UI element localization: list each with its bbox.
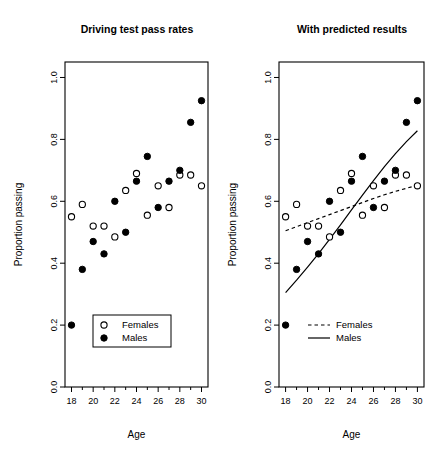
x-tick-label-left-1: 20	[88, 396, 98, 406]
data-point-females	[123, 187, 129, 193]
panel-title-right: With predicted results	[297, 23, 407, 35]
data-point-females	[282, 214, 288, 220]
y-tick-label-left-1: 0.2	[49, 319, 59, 332]
data-point-males	[304, 238, 310, 244]
x-tick-label-left-2: 22	[110, 396, 120, 406]
x-tick-label-right-2: 22	[325, 396, 335, 406]
two-panel-scatter-figure: Driving test pass rates0.00.20.40.60.81.…	[0, 0, 443, 460]
data-point-males	[403, 119, 409, 125]
data-point-males	[414, 97, 420, 103]
data-point-males	[79, 266, 85, 272]
panel-title-left: Driving test pass rates	[81, 23, 194, 35]
data-point-females	[293, 201, 299, 207]
y-axis-label-right: Proportion passing	[227, 183, 238, 266]
data-point-females	[198, 183, 204, 189]
data-point-females	[348, 170, 354, 176]
data-point-males	[90, 238, 96, 244]
y-tick-label-right-2: 0.4	[263, 257, 273, 270]
data-point-females	[112, 234, 118, 240]
legend-label-females: Females	[336, 319, 373, 330]
x-tick-label-left-6: 30	[196, 396, 206, 406]
data-point-males	[370, 204, 376, 210]
legend-label-females: Females	[122, 319, 159, 330]
legend-left[interactable]: FemalesMales	[93, 315, 171, 347]
data-point-males	[166, 178, 172, 184]
data-point-males	[122, 229, 128, 235]
y-tick-label-right-4: 0.8	[263, 133, 273, 146]
data-point-females	[144, 212, 150, 218]
data-point-females	[133, 170, 139, 176]
data-point-males	[359, 153, 365, 159]
data-point-females	[414, 183, 420, 189]
x-tick-label-left-4: 26	[153, 396, 163, 406]
x-tick-label-left-0: 18	[66, 396, 76, 406]
data-point-females	[166, 204, 172, 210]
x-tick-label-right-5: 28	[390, 396, 400, 406]
y-tick-label-left-3: 0.6	[49, 195, 59, 208]
data-point-males	[293, 266, 299, 272]
data-point-males	[381, 178, 387, 184]
data-point-females	[370, 183, 376, 189]
legend-marker-open-circle	[101, 322, 107, 328]
data-point-females	[337, 187, 343, 193]
data-point-females	[155, 183, 161, 189]
data-point-females	[101, 223, 107, 229]
data-point-females	[90, 223, 96, 229]
data-point-males	[392, 167, 398, 173]
data-point-males	[282, 322, 288, 328]
data-point-males	[315, 251, 321, 257]
legend-marker-filled-circle	[101, 335, 107, 341]
x-axis-label-left: Age	[128, 429, 146, 440]
data-point-females	[68, 214, 74, 220]
x-tick-label-right-0: 18	[281, 396, 291, 406]
data-point-females	[79, 201, 85, 207]
data-point-females	[381, 204, 387, 210]
fit-line-males	[286, 131, 418, 293]
chart-panel-left: Driving test pass rates0.00.20.40.60.81.…	[13, 23, 208, 440]
chart-panel-right: With predicted results0.00.20.40.60.81.0…	[227, 23, 424, 440]
data-point-males	[198, 97, 204, 103]
data-point-males	[68, 322, 74, 328]
data-point-females	[359, 212, 365, 218]
data-point-males	[155, 204, 161, 210]
x-tick-label-right-4: 26	[368, 396, 378, 406]
legend-label-males: Males	[336, 332, 362, 343]
y-tick-label-left-0: 0.0	[49, 381, 59, 394]
y-tick-label-right-0: 0.0	[263, 381, 273, 394]
data-point-males	[177, 167, 183, 173]
data-point-males	[112, 198, 118, 204]
x-tick-label-right-6: 30	[412, 396, 422, 406]
y-axis-label-left: Proportion passing	[13, 183, 24, 266]
y-tick-label-right-5: 1.0	[263, 71, 273, 84]
y-tick-label-right-3: 0.6	[263, 195, 273, 208]
x-tick-label-right-3: 24	[346, 396, 356, 406]
data-point-males	[326, 198, 332, 204]
data-point-females	[315, 223, 321, 229]
data-point-males	[133, 178, 139, 184]
data-point-females	[188, 172, 194, 178]
data-point-females	[403, 172, 409, 178]
figure-canvas: Driving test pass rates0.00.20.40.60.81.…	[0, 0, 443, 460]
data-point-males	[187, 119, 193, 125]
x-axis-label-right: Age	[343, 429, 361, 440]
y-tick-label-left-5: 1.0	[49, 71, 59, 84]
data-point-males	[337, 229, 343, 235]
data-point-males	[348, 178, 354, 184]
y-tick-label-left-2: 0.4	[49, 257, 59, 270]
x-tick-label-left-5: 28	[175, 396, 185, 406]
y-tick-label-right-1: 0.2	[263, 319, 273, 332]
legend-label-males: Males	[122, 332, 148, 343]
legend-right[interactable]: FemalesMales	[308, 319, 373, 343]
y-tick-label-left-4: 0.8	[49, 133, 59, 146]
data-point-females	[326, 234, 332, 240]
data-point-males	[144, 153, 150, 159]
x-tick-label-left-3: 24	[131, 396, 141, 406]
data-point-females	[304, 223, 310, 229]
data-point-males	[101, 251, 107, 257]
x-tick-label-right-1: 20	[303, 396, 313, 406]
